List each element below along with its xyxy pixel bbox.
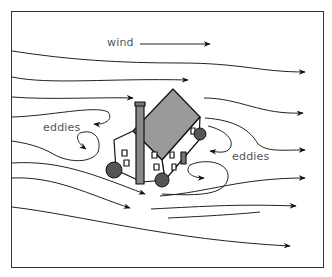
streamline-2 (12, 77, 188, 81)
streamline-5 (12, 178, 130, 208)
window (172, 164, 176, 170)
streamline-1 (12, 51, 305, 72)
streamline-r5 (168, 212, 260, 218)
window (170, 152, 174, 158)
window (152, 152, 157, 158)
window (154, 164, 159, 170)
door (181, 152, 186, 164)
chimney (136, 104, 144, 184)
streamline-r4 (151, 205, 296, 209)
streamline-r1 (204, 98, 303, 113)
eddy-left-loop (12, 132, 99, 161)
streamline-3 (12, 97, 133, 98)
shrub-right (194, 128, 206, 140)
wind-label: wind (107, 36, 134, 49)
streamline-r3 (160, 178, 305, 196)
window (124, 160, 129, 166)
window (122, 150, 127, 156)
wind-flow-diagram (0, 0, 332, 277)
shrub-left (106, 162, 122, 178)
eddies-label-right: eddies (232, 150, 270, 163)
eddies-label-left: eddies (43, 121, 81, 134)
shrub-front (155, 173, 169, 187)
house (114, 89, 200, 184)
streamline-r2 (205, 118, 305, 150)
eddy-right-upper (208, 126, 231, 152)
